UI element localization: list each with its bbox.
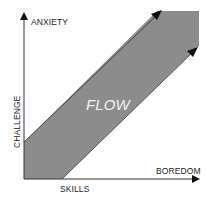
skills-label: SKILLS — [60, 184, 89, 194]
flow-band — [24, 11, 199, 179]
anxiety-label: ANXIETY — [31, 17, 68, 27]
x-axis-arrowhead — [192, 175, 200, 183]
boredom-label: BOREDOM — [156, 166, 201, 176]
challenge-label: CHALLENGE — [12, 98, 22, 148]
flow-label: FLOW — [86, 96, 130, 113]
y-axis-arrowhead — [20, 12, 28, 20]
